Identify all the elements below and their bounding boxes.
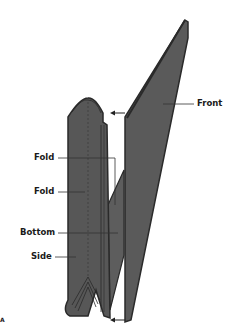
label-bottom: Bottom (20, 227, 55, 237)
front-panel (125, 20, 188, 322)
label-front: Front (197, 98, 222, 108)
arrow-top-icon (110, 111, 125, 116)
label-fold-mid: Fold (34, 186, 54, 196)
label-fold-top: Fold (34, 152, 54, 162)
corner-mark: A (0, 316, 5, 323)
arrow-bottom-icon (110, 318, 125, 323)
garment-assembly-diagram (0, 0, 236, 325)
bottom-panel (108, 170, 124, 310)
label-side: Side (31, 251, 52, 261)
